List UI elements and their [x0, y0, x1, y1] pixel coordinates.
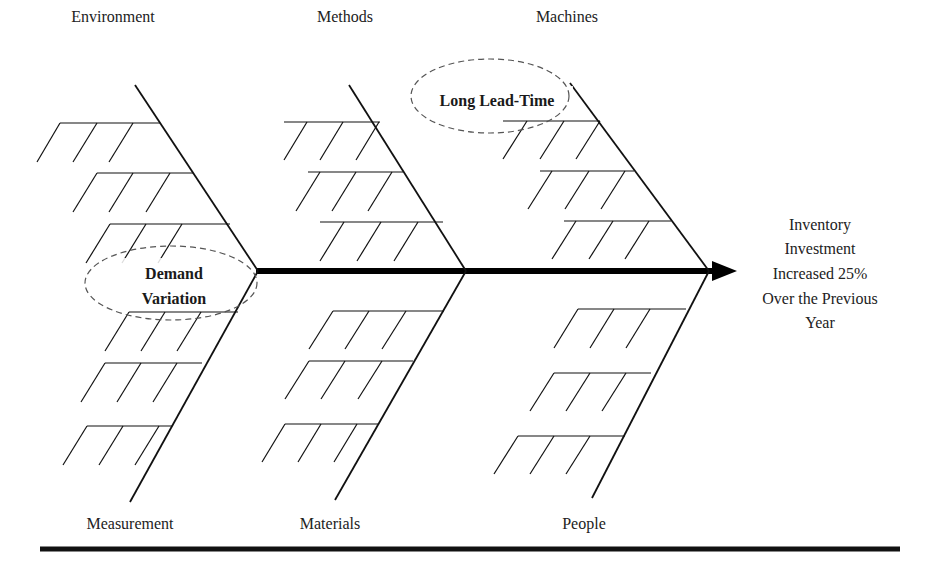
highlight-long-lead-time: Long Lead-Time	[411, 59, 573, 133]
effect-line-1: Inventory	[789, 216, 851, 234]
highlight-demand-variation: Demand Variation	[85, 246, 257, 320]
effect-line-2: Investment	[784, 240, 856, 257]
bone-materials	[262, 271, 466, 500]
category-label-measurement: Measurement	[86, 515, 174, 532]
spine-arrow	[256, 261, 737, 281]
category-label-materials: Materials	[300, 515, 360, 532]
bone-people	[494, 271, 709, 498]
effect-line-3: Increased 25%	[773, 265, 868, 282]
effect-line-4: Over the Previous	[762, 290, 878, 307]
effect-statement: Inventory Investment Increased 25% Over …	[762, 216, 878, 331]
category-label-environment: Environment	[71, 8, 155, 25]
category-label-machines: Machines	[536, 8, 598, 25]
bone-environment	[37, 85, 258, 271]
highlight-text-long-lead-time: Long Lead-Time	[440, 92, 555, 110]
effect-line-5: Year	[805, 314, 835, 331]
highlight-text-demand: Demand	[145, 265, 203, 282]
category-label-methods: Methods	[317, 8, 373, 25]
bone-methods	[284, 85, 466, 271]
highlight-text-variation: Variation	[142, 290, 206, 307]
bone-machines	[503, 83, 709, 271]
category-label-people: People	[562, 515, 606, 533]
fishbone-diagram: Environment Methods Machines Measurement…	[0, 0, 928, 570]
